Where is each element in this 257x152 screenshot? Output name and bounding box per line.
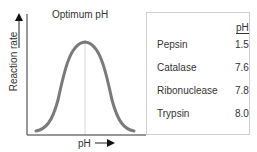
enzyme-name: Trypsin	[157, 108, 189, 119]
optimum-ph-label: Optimum pH	[52, 9, 108, 20]
enzyme-ph: 8.0	[235, 108, 249, 119]
enzyme-name: Pepsin	[157, 39, 188, 50]
y-arrow-head-icon	[15, 13, 23, 21]
x-arrow-head-icon	[107, 139, 115, 147]
table-header-ph: pH	[236, 23, 249, 34]
enzyme-name: Ribonuclease	[157, 85, 218, 96]
x-axis-label: pH	[78, 138, 91, 149]
enzyme-ph-table: pH Pepsin 1.5 Catalase 7.6 Ribonuclease …	[146, 12, 250, 135]
enzyme-name: Catalase	[157, 62, 196, 73]
enzyme-ph: 1.5	[235, 39, 249, 50]
enzyme-ph: 7.8	[235, 85, 249, 96]
y-axis-label: Reaction rate	[8, 27, 19, 97]
enzyme-ph: 7.6	[235, 62, 249, 73]
